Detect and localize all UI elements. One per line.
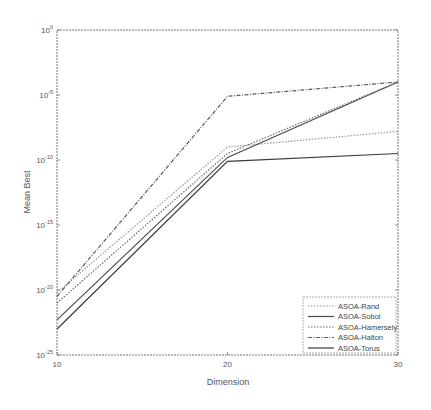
chart: 10010-510-1010-1510-2010-25 102030 Mean …: [0, 0, 431, 410]
y-tick-label: 10-15: [36, 219, 53, 230]
legend-label: ASOA-Sobol: [338, 312, 381, 321]
y-tick-label: 100: [41, 24, 53, 35]
x-tick-label: 30: [394, 360, 403, 369]
legend-label: ASOA-Hamersely: [338, 323, 397, 332]
series-line-asoa-hamersely: [57, 82, 398, 303]
legend: ASOA-RandASOA-SobolASOA-HamerselyASOA-Ha…: [303, 297, 397, 353]
y-tick-label: 10-20: [36, 284, 53, 295]
y-axis-title: Mean Best: [22, 170, 32, 214]
legend-label: ASOA-Rand: [338, 302, 379, 311]
y-tick-label: 10-25: [36, 349, 53, 360]
series-line-asoa-sobol: [57, 82, 398, 320]
x-axis-title: Dimension: [207, 377, 250, 387]
y-tick-label: 10-5: [39, 89, 53, 100]
legend-label: ASOA-Torus: [338, 344, 380, 353]
x-tick-label: 10: [53, 360, 62, 369]
legend-label: ASOA-Halton: [338, 333, 383, 342]
x-tick-label: 20: [223, 360, 232, 369]
y-tick-label: 10-10: [36, 154, 53, 165]
series-line-asoa-halton: [57, 82, 398, 297]
series-lines: [57, 82, 398, 329]
